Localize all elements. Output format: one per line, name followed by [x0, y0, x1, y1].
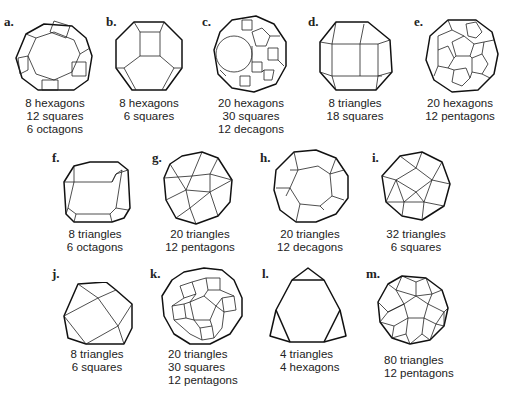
panel-letter: k. [150, 266, 160, 282]
panel-letter: h. [260, 150, 270, 166]
caption-line: 20 triangles [270, 228, 350, 241]
snub-dodecahedron-drawing [376, 274, 450, 346]
caption-line: 8 hexagons [20, 97, 90, 110]
icosidodecahedron-drawing [162, 150, 236, 226]
cuboctahedron-drawing [62, 282, 134, 348]
caption-line: 12 squares [20, 110, 90, 123]
caption-line: 12 decagons [270, 241, 350, 254]
truncated-cube-drawing [62, 160, 132, 224]
caption-line: 4 triangles [280, 348, 350, 361]
panel-caption: 8 hexagons 12 squares 6 octagons [20, 97, 90, 136]
caption-line: 18 squares [318, 110, 392, 123]
caption-line: 8 hexagons [114, 97, 184, 110]
panel-caption: 8 triangles 6 squares [62, 348, 132, 374]
caption-line: 20 triangles [168, 348, 248, 361]
caption-line: 12 decagons [214, 123, 288, 136]
caption-line: 12 pentagons [160, 241, 240, 254]
truncated-octahedron-drawing [114, 18, 184, 94]
caption-line: 6 octagons [20, 123, 90, 136]
panel-letter: j. [52, 266, 60, 282]
caption-line: 8 triangles [60, 228, 130, 241]
snub-cube-drawing [380, 150, 452, 222]
panel-caption: 8 hexagons 6 squares [114, 97, 184, 123]
caption-line: 8 triangles [62, 348, 132, 361]
panel-letter: i. [372, 150, 379, 166]
truncated-dodecahedron-drawing [272, 148, 350, 224]
caption-line: 12 pentagons [168, 374, 248, 387]
caption-line: 6 octagons [60, 241, 130, 254]
caption-line: 20 triangles [160, 228, 240, 241]
caption-line: 6 squares [62, 361, 132, 374]
rhombicosidodecahedron-drawing [160, 266, 244, 346]
caption-line: 6 squares [376, 241, 456, 254]
panel-caption: 20 triangles 12 decagons [270, 228, 350, 254]
panel-caption: 80 triangles 12 pentagons [384, 354, 464, 380]
panel-letter: f. [52, 150, 60, 166]
panel-caption: 8 triangles 6 octagons [60, 228, 130, 254]
panel-letter: a. [4, 14, 14, 30]
truncated-tetrahedron-drawing [268, 266, 348, 346]
panel-letter: c. [202, 14, 211, 30]
panel-caption: 20 triangles 12 pentagons [160, 228, 240, 254]
panel-caption: 8 triangles 18 squares [318, 97, 392, 123]
caption-line: 12 pentagons [420, 110, 500, 123]
panel-caption: 20 hexagons 30 squares 12 decagons [214, 97, 288, 136]
caption-line: 8 triangles [318, 97, 392, 110]
panel-letter: d. [308, 14, 318, 30]
truncated-icosidodecahedron-drawing [212, 14, 288, 94]
rhombicuboctahedron-drawing [318, 20, 394, 92]
panel-letter: e. [414, 14, 423, 30]
panel-caption: 32 triangles 6 squares [376, 228, 456, 254]
caption-line: 20 hexagons [214, 97, 288, 110]
caption-line: 4 hexagons [280, 361, 350, 374]
truncated-cuboctahedron-drawing [14, 18, 94, 94]
panel-caption: 4 triangles 4 hexagons [280, 348, 350, 374]
caption-line: 32 triangles [376, 228, 456, 241]
panel-caption: 20 hexagons 12 pentagons [420, 97, 500, 123]
panel-letter: g. [152, 150, 162, 166]
caption-line: 20 hexagons [420, 97, 500, 110]
caption-line: 80 triangles [384, 354, 464, 367]
panel-caption: 20 triangles 30 squares 12 pentagons [168, 348, 248, 387]
caption-line: 30 squares [214, 110, 288, 123]
caption-line: 30 squares [168, 361, 248, 374]
caption-line: 6 squares [114, 110, 184, 123]
truncated-icosahedron-drawing [424, 16, 500, 94]
caption-line: 12 pentagons [384, 367, 464, 380]
